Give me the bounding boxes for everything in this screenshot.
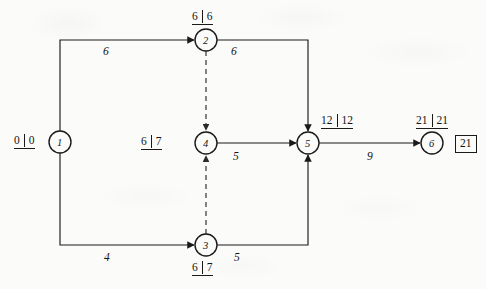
node-6-time-pair: 21 21 xyxy=(416,114,448,129)
project-duration-box: 21 xyxy=(455,135,477,153)
edge-weight-5-6: 9 xyxy=(367,151,373,163)
node-3-label: 3 xyxy=(203,241,208,252)
edge-weight-3-5: 5 xyxy=(234,252,240,264)
node-5-late-time: 12 xyxy=(338,114,354,127)
node-5-early-time: 12 xyxy=(321,114,337,127)
node-2-label: 2 xyxy=(203,36,208,47)
node-1-time-pair: 0 0 xyxy=(14,134,35,149)
node-1-late-time: 0 xyxy=(25,134,35,147)
node-1-early-time: 0 xyxy=(14,134,24,147)
node-4-late-time: 7 xyxy=(152,135,162,148)
node-5-label: 5 xyxy=(305,139,310,150)
node-5-time-pair: 12 12 xyxy=(321,114,353,129)
node-4-label: 4 xyxy=(203,139,208,150)
node-2-early-time: 6 xyxy=(192,10,202,23)
edge-1-to-2 xyxy=(60,40,194,131)
edge-weight-2-5: 6 xyxy=(231,46,237,58)
edge-3-to-5 xyxy=(217,155,308,245)
node-6-late-time: 21 xyxy=(433,114,449,127)
edge-weight-1-3: 4 xyxy=(104,252,110,264)
node-1-label: 1 xyxy=(57,138,62,149)
node-6-early-time: 21 xyxy=(416,114,432,127)
edge-1-to-3 xyxy=(60,153,194,245)
node-3-early-time: 6 xyxy=(192,261,202,274)
network-diagram-canvas: 1 2 3 4 5 6 0 0 6 6 6 7 6 7 12 12 21 21 … xyxy=(0,0,486,289)
node-3-late-time: 7 xyxy=(203,261,213,274)
node-6-label: 6 xyxy=(429,139,434,150)
network-graph-svg xyxy=(0,0,486,289)
edge-weight-4-5: 5 xyxy=(233,151,239,163)
node-2-late-time: 6 xyxy=(203,10,213,23)
node-4-time-pair: 6 7 xyxy=(141,135,162,150)
edge-weight-1-2: 6 xyxy=(103,46,109,58)
node-4-early-time: 6 xyxy=(141,135,151,148)
node-3-time-pair: 6 7 xyxy=(192,261,213,276)
node-2-time-pair: 6 6 xyxy=(192,10,213,25)
